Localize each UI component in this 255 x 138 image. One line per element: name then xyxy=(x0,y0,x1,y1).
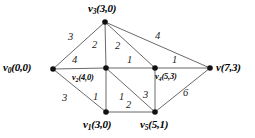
edge-weight-label: 6 xyxy=(183,88,188,99)
edge-weight-label: 2 xyxy=(115,41,120,52)
edge-weight-label: 3 xyxy=(68,32,73,43)
vertex-label: v(7,3) xyxy=(216,62,241,73)
graph-vertex-dot xyxy=(207,65,213,71)
edge-weight-label: 1 xyxy=(127,55,132,66)
graph-vertex-dot xyxy=(152,109,158,115)
graph-vertex-dot xyxy=(103,109,109,115)
vertex-label: v2(4,0) xyxy=(72,73,94,83)
graph-edge xyxy=(105,22,106,68)
graph-vertex-dot xyxy=(102,19,108,25)
vertex-label: v4(5,3) xyxy=(155,72,177,82)
vertex-coordinates: (0,0) xyxy=(11,61,31,73)
edge-weight-label: 4 xyxy=(155,31,160,42)
edges-group xyxy=(53,22,210,112)
vertex-label: v5(5,1) xyxy=(140,119,168,131)
graph-vertex-dot xyxy=(50,66,56,72)
graph-vertex-dot xyxy=(103,65,109,71)
weighted-graph-figure: 3432241111326 v0(0,0)v3(3,0)v2(4,0)v4(5,… xyxy=(0,0,255,138)
edge-weight-label: 1 xyxy=(172,55,177,66)
edge-weight-label: 3 xyxy=(62,93,67,104)
edge-weight-label: 2 xyxy=(92,40,97,51)
vertex-coordinates: (5,3) xyxy=(161,71,176,81)
edge-weight-label: 1 xyxy=(93,92,98,103)
graph-vertex-dot xyxy=(152,65,158,71)
vertex-label: v3(3,0) xyxy=(88,3,116,15)
vertex-label: v0(0,0) xyxy=(3,62,31,74)
vertex-coordinates: (3,0) xyxy=(91,118,111,130)
vertex-coordinates: (7,3) xyxy=(221,61,241,73)
vertex-coordinates: (3,0) xyxy=(96,2,116,14)
edge-weight-label: 1 xyxy=(119,92,124,103)
graph-edge xyxy=(53,68,106,69)
edge-weight-label: 2 xyxy=(126,100,131,111)
vertex-label: v1(3,0) xyxy=(83,119,111,131)
graph-edge xyxy=(105,22,210,68)
vertex-coordinates: (5,1) xyxy=(148,118,168,130)
edge-weight-label: 4 xyxy=(72,55,77,66)
vertex-coordinates: (4,0) xyxy=(78,72,93,82)
edge-weight-label: 3 xyxy=(143,90,148,101)
